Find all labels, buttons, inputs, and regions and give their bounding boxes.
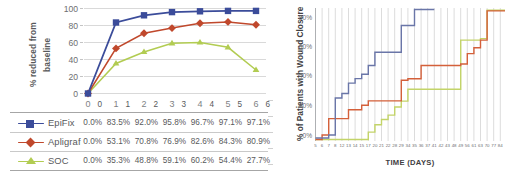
table-cell: 53.1% [102, 137, 130, 146]
table-cell: 48.8% [130, 156, 158, 165]
legend-marker-soc [18, 159, 44, 163]
table-cell: 60.2% [186, 156, 214, 165]
table-cell: 59.1% [158, 156, 186, 165]
left-chart-ytick-0: 0 [56, 89, 78, 99]
table-row: Apligraf 0.0% 53.1% 70.8% 76.9% 82.6% 84… [10, 133, 268, 150]
figure-root: % reduced from baseline [0, 0, 521, 185]
right-chart-ytick-0: 0% [292, 132, 312, 139]
table-cell: 0.0% [74, 118, 102, 127]
left-chart-ytick-40: 40 [56, 55, 78, 65]
left-chart-svg [84, 8, 266, 96]
table-header-3: 3 [158, 100, 186, 109]
left-chart-ytick-100: 100 [52, 4, 78, 14]
table-cell: 97.1% [242, 118, 270, 127]
right-chart-ytick-20: 20% [292, 102, 312, 109]
left-chart-ytick-20: 20 [56, 72, 78, 82]
table-cell: 96.7% [186, 118, 214, 127]
legend-marker-apligraf [18, 140, 44, 144]
left-chart-y-axis-label: % reduced from baseline [26, 6, 40, 104]
table-row-label-soc: SOC [48, 155, 69, 166]
table-cell: 0.0% [74, 156, 102, 165]
table-cell: 54.4% [214, 156, 242, 165]
table-cell: 76.9% [158, 137, 186, 146]
right-chart-ytick-80: 80% [292, 14, 312, 21]
left-chart-ytick-60: 60 [56, 38, 78, 48]
left-chart-ytickmark-0 [80, 93, 83, 94]
table-cell: 92.0% [130, 118, 158, 127]
table-cell: 35.3% [102, 156, 130, 165]
table-cell: 82.6% [186, 137, 214, 146]
right-chart-series-apligraf [316, 11, 506, 140]
left-chart-ytickmark-100 [80, 8, 83, 9]
results-table: 0 1 2 3 4 5 6 EpiFix 0.0% 83.5% 92.0% 95… [10, 113, 268, 173]
table-header-2: 2 [130, 100, 158, 109]
table-row: SOC 0.0% 35.3% 48.8% 59.1% 60.2% 54.4% 2… [10, 152, 268, 169]
table-header-0: 0 [74, 100, 102, 109]
table-cell: 0.0% [74, 137, 102, 146]
right-chart-xtick: 84 [496, 143, 504, 148]
left-chart-panel: % reduced from baseline [0, 0, 272, 185]
left-chart-series-soc [85, 39, 260, 96]
table-cell: 70.8% [130, 137, 158, 146]
table-bottom-rule [10, 170, 268, 171]
table-cell: 95.8% [158, 118, 186, 127]
left-chart-ytickmark-60 [80, 42, 83, 43]
table-header-1: 1 [102, 100, 130, 109]
right-chart-x-axis-title: TIME (DAYS) [315, 158, 505, 167]
right-chart-plot-area [315, 8, 505, 141]
left-chart-plot-area [84, 8, 266, 96]
left-chart-series-apligraf [84, 18, 260, 98]
table-cell: 83.5% [102, 118, 130, 127]
table-cell: 80.9% [242, 137, 270, 146]
right-chart-panel: % of Patients with Wound Closure 0% 20% … [272, 0, 521, 185]
right-chart-ytick-40: 40% [292, 72, 312, 79]
left-chart-ytickmark-20 [80, 76, 83, 77]
left-chart-ytickmark-80 [80, 25, 83, 26]
right-chart-gridlines [316, 8, 501, 141]
table-header-6: 6 [242, 100, 270, 109]
left-chart-ytick-80: 80 [56, 21, 78, 31]
right-chart-x-axis: 5 6 7 8 12 13 14 15 17 20 21 22 28 29 34… [315, 143, 505, 152]
right-chart-ytick-60: 60% [292, 43, 312, 50]
table-header-4: 4 [186, 100, 214, 109]
left-chart-gridlines [84, 9, 266, 94]
legend-marker-epifix [18, 121, 44, 125]
table-cell: 27.7% [242, 156, 270, 165]
table-row: EpiFix 0.0% 83.5% 92.0% 95.8% 96.7% 97.1… [10, 114, 268, 131]
left-chart-ytickmark-40 [80, 59, 83, 60]
right-chart-series-soc [316, 10, 506, 139]
table-row-label-epifix: EpiFix [48, 117, 75, 128]
table-cell: 97.1% [214, 118, 242, 127]
right-chart-svg [315, 8, 505, 141]
table-header-5: 5 [214, 100, 242, 109]
table-cell: 84.3% [214, 137, 242, 146]
